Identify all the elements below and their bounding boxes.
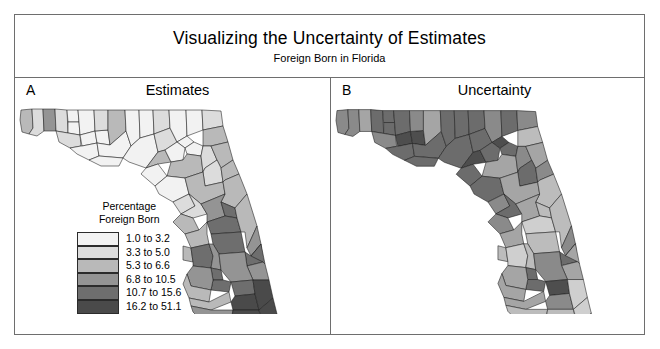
county-okaloosa	[43, 109, 56, 131]
legend-swatch	[77, 232, 119, 246]
legend-label: 10.7 to 15.6	[126, 286, 181, 300]
county-baker	[186, 110, 203, 136]
county-hillsborough	[191, 244, 213, 268]
legend-label: 3.3 to 5.0	[126, 246, 170, 260]
legend-row: 1.0 to 3.2	[77, 232, 181, 246]
legend-a-title-line2: Foreign Born	[77, 213, 181, 226]
title-block: Visualizing the Uncertainty of Estimates…	[15, 15, 644, 78]
county-hendry	[546, 293, 574, 309]
county-jackson	[78, 110, 95, 135]
legend-row: 3.3 to 5.0	[77, 246, 181, 260]
figure-frame: Visualizing the Uncertainty of Estimates…	[14, 14, 645, 335]
panel-b-heading: Uncertainty	[331, 83, 644, 98]
panel-estimates: A Estimates Percentage Foreign Born 1.0 …	[15, 78, 330, 334]
county-madison	[454, 111, 469, 139]
county-glades	[231, 280, 255, 296]
county-hendry	[231, 294, 259, 310]
legend-swatch	[77, 300, 119, 314]
county-gadsden	[94, 110, 108, 131]
map-svg-uncertainty	[331, 98, 644, 314]
legend-swatch	[77, 286, 119, 300]
legend-swatch	[77, 273, 119, 287]
legend-row: 16.2 to 51.1	[77, 300, 181, 314]
legend-a-rows: 1.0 to 3.23.3 to 5.05.3 to 6.66.8 to 10.…	[77, 232, 181, 314]
legend-row: 5.3 to 6.6	[77, 259, 181, 273]
florida-map-uncertainty	[331, 98, 644, 314]
legend-a-title: Percentage Foreign Born	[77, 200, 181, 226]
county-liberty	[410, 130, 425, 145]
legend-row: 10.7 to 15.6	[77, 286, 181, 300]
county-walton	[55, 109, 68, 133]
county-glades	[546, 280, 570, 296]
legend-label: 5.3 to 6.6	[126, 259, 170, 273]
page-subtitle: Foreign Born in Florida	[274, 52, 386, 64]
county-desoto	[211, 280, 231, 292]
panel-a-heading: Estimates	[15, 83, 330, 98]
county-baker	[501, 111, 518, 137]
county-jackson	[394, 111, 411, 136]
legend-label: 16.2 to 51.1	[126, 300, 181, 314]
legend-label: 6.8 to 10.5	[126, 273, 176, 287]
county-escambia	[20, 109, 33, 134]
county-hillsborough	[506, 244, 528, 268]
legend-label: 1.0 to 3.2	[126, 232, 170, 246]
county-madison	[139, 110, 154, 138]
legend-row: 6.8 to 10.5	[77, 273, 181, 287]
county-liberty	[95, 130, 110, 145]
legend-a-title-line1: Percentage	[77, 200, 181, 213]
panel-uncertainty: B Uncertainty Coefficient of Variation (…	[330, 78, 644, 334]
page-title: Visualizing the Uncertainty of Estimates	[173, 28, 486, 48]
county-holmes	[67, 110, 79, 122]
county-okaloosa	[359, 110, 372, 132]
legend-swatch	[77, 246, 119, 260]
county-escambia	[336, 110, 349, 135]
legend-estimates: Percentage Foreign Born 1.0 to 3.23.3 to…	[77, 200, 181, 314]
county-gadsden	[409, 111, 423, 132]
county-walton	[371, 110, 384, 134]
county-desoto	[526, 280, 546, 292]
legend-swatch	[77, 259, 119, 273]
county-holmes	[383, 111, 395, 123]
